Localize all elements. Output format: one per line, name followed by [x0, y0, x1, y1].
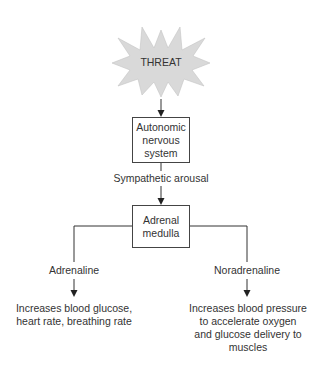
noradrenaline-effect-line-3: and glucose delivery to — [185, 328, 311, 341]
arrowhead-icon — [158, 198, 165, 205]
noradrenaline-effect-line-4: muscles — [185, 341, 311, 354]
arrowhead-icon — [71, 290, 78, 297]
adrenal-line-2: medulla — [143, 227, 180, 240]
adrenaline-effect-text: Increases blood glucose, heart rate, bre… — [10, 302, 138, 328]
edge-adrenal-to-adrenaline — [74, 226, 132, 262]
threat-label: THREAT — [131, 56, 191, 68]
noradrenaline-effect-text: Increases blood pressure to accelerate o… — [185, 302, 311, 354]
ans-line-1: Autonomic — [136, 121, 186, 134]
sympathetic-arousal-label: Sympathetic arousal — [96, 172, 226, 185]
arrowhead-icon — [158, 110, 165, 117]
adrenaline-effect-line-1: Increases blood glucose, — [10, 302, 138, 315]
autonomic-nervous-system-box: Autonomic nervous system — [132, 117, 190, 163]
ans-line-2: nervous — [136, 134, 186, 147]
adrenaline-label: Adrenaline — [34, 264, 114, 277]
adrenaline-effect-line-2: heart rate, breathing rate — [10, 315, 138, 328]
arrowhead-icon — [244, 290, 251, 297]
edge-adrenal-to-noradrenaline — [190, 226, 247, 262]
noradrenaline-effect-line-2: to accelerate oxygen — [185, 315, 311, 328]
ans-line-3: system — [136, 147, 186, 160]
adrenal-line-1: Adrenal — [143, 214, 180, 227]
noradrenaline-label: Noradrenaline — [202, 264, 292, 277]
adrenal-medulla-box: Adrenal medulla — [132, 205, 190, 248]
noradrenaline-effect-line-1: Increases blood pressure — [185, 302, 311, 315]
